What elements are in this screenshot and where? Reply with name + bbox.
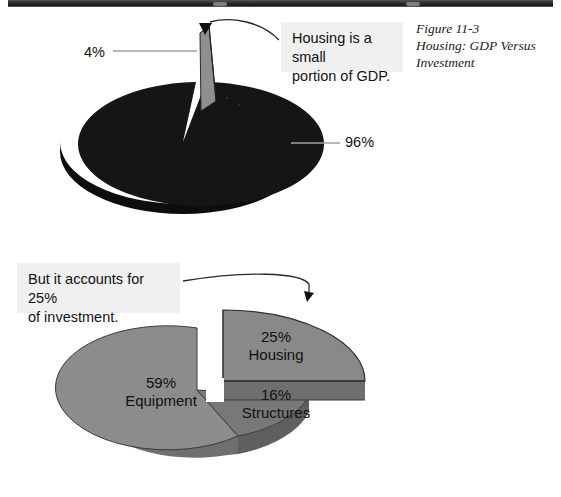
figure-caption: Figure 11-3 Housing: GDP Versus Investme… xyxy=(416,20,556,71)
label-investment-housing-pct: 25% xyxy=(229,328,323,346)
callout-investment-line-2: of investment. xyxy=(28,308,170,327)
callout-gdp: Housing is a small portion of GDP. xyxy=(281,22,403,72)
scan-speckle xyxy=(238,104,240,106)
label-investment-structures-name: Structures xyxy=(228,404,324,422)
callout-investment-line-1: But it accounts for 25% xyxy=(28,270,170,308)
label-investment-structures-pct: 16% xyxy=(228,386,324,404)
label-gdp-housing-pct: 4% xyxy=(84,44,105,60)
figure-caption-title-1: Housing: GDP Versus xyxy=(416,37,556,54)
gdp-slice-4-top xyxy=(200,26,216,111)
scan-speckle xyxy=(226,97,228,99)
callout-gdp-line-1: Housing is a small xyxy=(292,29,393,67)
figure-graphics xyxy=(0,0,561,497)
label-investment-structures: 16% Structures xyxy=(228,386,324,422)
housing-explode-gap-mask xyxy=(206,306,210,384)
callout-investment: But it accounts for 25% of investment. xyxy=(17,263,180,313)
label-investment-equipment-pct: 59% xyxy=(113,374,209,392)
label-gdp-rest-pct: 96% xyxy=(345,134,374,150)
label-investment-equipment-name: Equipment xyxy=(113,392,209,410)
figure-page: Figure 11-3 Housing: GDP Versus Investme… xyxy=(0,0,561,497)
figure-caption-number: Figure 11-3 xyxy=(416,20,556,37)
callout-arrow-gdp xyxy=(210,20,279,40)
callout-gdp-line-2: portion of GDP. xyxy=(292,67,393,86)
label-investment-housing-name: Housing xyxy=(229,346,323,364)
figure-caption-title-2: Investment xyxy=(416,54,556,71)
callout-arrow-investment xyxy=(183,274,309,284)
label-investment-housing: 25% Housing xyxy=(229,328,323,364)
label-investment-equipment: 59% Equipment xyxy=(113,374,209,410)
